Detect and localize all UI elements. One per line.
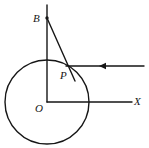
ray-direction-arrow-icon: [99, 63, 106, 69]
axis-x-label: X: [134, 96, 141, 107]
geometry-diagram-svg: [0, 0, 149, 148]
origin-label: O: [35, 103, 43, 114]
geometry-figure: B P O X: [0, 0, 149, 148]
point-b-dot: [45, 16, 48, 19]
point-p-label: P: [60, 70, 67, 81]
point-b-label: B: [33, 13, 40, 24]
